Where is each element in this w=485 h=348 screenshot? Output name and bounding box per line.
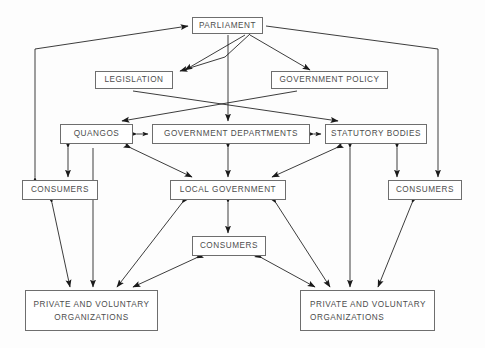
e-parliament-legislation [185,35,245,70]
diagram-canvas: PARLIAMENTLEGISLATIONGOVERNMENT POLICYQU… [0,0,485,348]
e-localgov-pvoleft [117,203,182,287]
e-parliament-govpolicy [250,35,310,70]
node-statutory[interactable]: STATUTORY BODIES [325,124,427,144]
node-pvo-left[interactable]: PRIVATE AND VOLUNTARY ORGANIZATIONS [25,290,158,331]
e-parliament-consumersright [266,26,438,177]
e-localgov-pvoright [276,203,330,287]
e-consumersleft-pvoleft [52,203,70,287]
node-pvo-right[interactable]: PRIVATE AND VOLUNTARY ORGANIZATIONS [300,290,435,331]
e-consumersleft-parliament [35,26,188,177]
e-quangos-localgov [131,148,192,177]
e-govpolicy-quangos [122,91,297,121]
node-consumers-mid[interactable]: CONSUMERS [192,236,266,256]
node-local-gov[interactable]: LOCAL GOVERNMENT [170,180,286,200]
e-consumersmid-pvoright [262,258,315,287]
node-consumers-left[interactable]: CONSUMERS [22,180,98,200]
node-gov-departments[interactable]: GOVERNMENT DEPARTMENTS [152,124,310,144]
node-legislation[interactable]: LEGISLATION [95,71,173,89]
node-parliament[interactable]: PARLIAMENT [192,17,263,34]
node-consumers-right[interactable]: CONSUMERS [388,180,462,200]
e-legislation-govdept [133,91,338,121]
e-statutory-localgov [272,148,336,177]
node-gov-policy[interactable]: GOVERNMENT POLICY [271,71,388,89]
e-consumersmid-pvoleft [133,258,196,287]
e-consumersright-pvoright [378,203,412,287]
node-quangos[interactable]: QUANGOS [60,124,133,144]
